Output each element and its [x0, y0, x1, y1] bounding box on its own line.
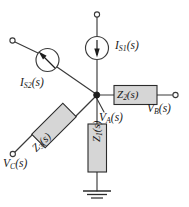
label-z2-suffix: (s) — [127, 88, 139, 100]
wire-upperleft-to-is2 — [15, 42, 38, 53]
label-vb: VB(s) — [147, 103, 171, 116]
label-va-suffix: (s) — [111, 111, 123, 123]
label-vb-text: V — [147, 102, 154, 114]
circuit-diagram: IS1(s) IS2(s) VA(s) VB(s) VC(s) Z2(s) Z1… — [0, 0, 189, 207]
terminal-lower-left-vc[interactable] — [10, 151, 15, 156]
ground-symbol — [83, 191, 111, 198]
label-is1-suffix: (s) — [127, 39, 139, 51]
current-source-is2 — [36, 49, 59, 72]
terminal-upper-left[interactable] — [10, 38, 15, 43]
terminal-right-vb[interactable] — [173, 92, 178, 97]
label-is2: IS2(s) — [20, 77, 44, 90]
wire-is2-to-node — [57, 67, 96, 94]
label-vc: VC(s) — [3, 158, 27, 171]
label-z1: Z1(s) — [91, 121, 103, 142]
label-is1: IS1(s) — [115, 40, 139, 53]
label-z2: Z2(s) — [117, 89, 138, 101]
label-z1-text: Z — [90, 136, 102, 142]
current-source-is1 — [86, 37, 109, 60]
label-vc-suffix: (s) — [15, 157, 27, 169]
label-z1-sub: 1 — [95, 132, 104, 136]
label-vb-suffix: (s) — [159, 102, 171, 114]
terminal-top[interactable] — [94, 12, 99, 17]
node-va-dot — [94, 92, 100, 98]
label-vc-text: V — [3, 157, 10, 169]
label-is2-suffix: (s) — [32, 76, 44, 88]
label-z1-suffix: (s) — [90, 121, 102, 133]
label-is2-sub: S2 — [24, 81, 32, 90]
label-is1-sub: S1 — [119, 44, 127, 53]
